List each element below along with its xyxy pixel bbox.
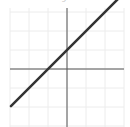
line-chart <box>0 0 130 127</box>
